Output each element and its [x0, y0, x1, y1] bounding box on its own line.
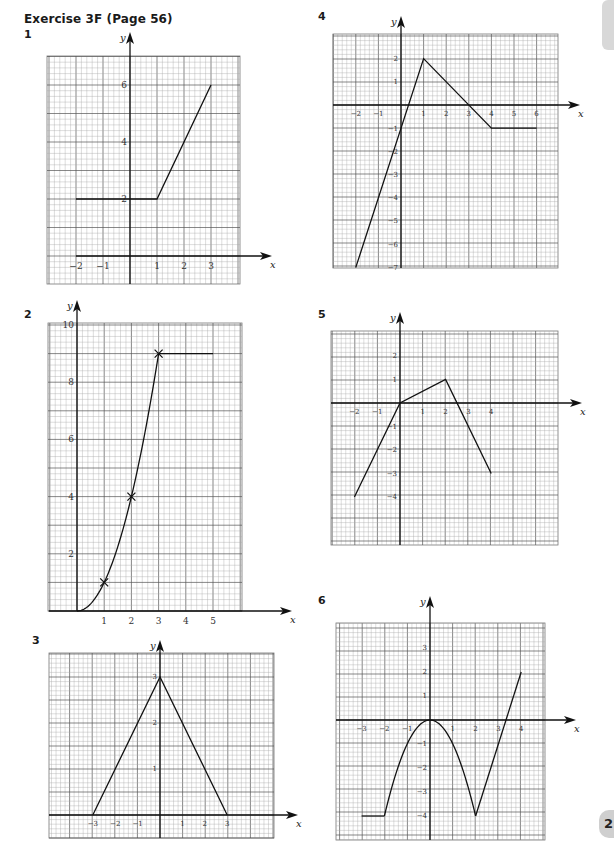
svg-text:−2: −2: [110, 820, 120, 828]
svg-text:3: 3: [466, 408, 470, 416]
svg-text:2: 2: [444, 110, 448, 118]
svg-text:1: 1: [423, 692, 427, 700]
svg-text:1: 1: [394, 78, 398, 86]
svg-text:2: 2: [394, 55, 398, 63]
svg-text:4: 4: [489, 408, 494, 416]
svg-text:2: 2: [129, 616, 135, 626]
svg-text:3: 3: [225, 820, 229, 828]
question-number-3: 3: [32, 634, 40, 647]
svg-text:1: 1: [451, 725, 455, 733]
svg-text:−1: −1: [372, 408, 382, 416]
svg-text:−3: −3: [417, 788, 427, 796]
svg-text:1: 1: [421, 408, 425, 416]
svg-text:−2: −2: [349, 408, 359, 416]
svg-text:3: 3: [153, 673, 157, 681]
svg-text:2: 2: [423, 668, 427, 676]
svg-text:−1: −1: [96, 261, 109, 271]
svg-text:2: 2: [181, 261, 187, 271]
svg-text:−1: −1: [417, 740, 427, 748]
graph-4: xy−2−112345621−1−2−3−4−5−6−7: [333, 16, 584, 272]
svg-text:2: 2: [203, 820, 207, 828]
svg-text:5: 5: [512, 110, 516, 118]
svg-text:y: y: [66, 300, 73, 311]
svg-text:6: 6: [534, 110, 539, 118]
svg-text:−2: −2: [351, 110, 361, 118]
svg-text:−4: −4: [388, 194, 399, 202]
svg-text:4: 4: [519, 725, 524, 733]
svg-text:x: x: [578, 108, 584, 119]
svg-text:5: 5: [210, 616, 216, 626]
svg-text:−3: −3: [356, 725, 366, 733]
grid: [47, 56, 240, 284]
svg-text:2: 2: [153, 719, 157, 727]
graph-2: xy12345246810: [48, 300, 296, 626]
question-number-1: 1: [24, 28, 32, 41]
svg-text:2: 2: [443, 408, 447, 416]
svg-text:−2: −2: [417, 764, 427, 772]
svg-text:3: 3: [156, 616, 162, 626]
svg-text:y: y: [149, 640, 156, 651]
svg-text:1: 1: [154, 261, 160, 271]
svg-text:−3: −3: [88, 820, 98, 828]
svg-text:−1: −1: [402, 725, 412, 733]
svg-text:x: x: [270, 259, 276, 270]
svg-text:3: 3: [467, 110, 471, 118]
graph-1: xy−2−1123246: [47, 32, 276, 284]
graphs-canvas: xy−2−1123246xy12345246810xy−3−2−1123123x…: [0, 0, 614, 842]
grid: [336, 623, 545, 840]
svg-text:2: 2: [68, 549, 74, 559]
graph-3: xy−3−2−1123123: [49, 640, 302, 838]
svg-text:4: 4: [68, 492, 74, 502]
svg-text:2: 2: [473, 725, 477, 733]
svg-text:y: y: [389, 312, 396, 323]
question-number-5: 5: [318, 308, 326, 321]
svg-text:6: 6: [68, 434, 74, 444]
svg-text:1: 1: [180, 820, 184, 828]
svg-text:4: 4: [183, 616, 189, 626]
svg-text:3: 3: [496, 725, 500, 733]
svg-text:6: 6: [121, 80, 127, 90]
svg-text:10: 10: [63, 320, 75, 330]
svg-text:8: 8: [68, 377, 74, 387]
svg-text:1: 1: [393, 376, 397, 384]
svg-text:−1: −1: [373, 110, 383, 118]
svg-text:x: x: [574, 723, 580, 734]
grid: [331, 331, 558, 545]
svg-text:x: x: [580, 406, 586, 417]
svg-text:−4: −4: [387, 493, 398, 501]
svg-text:3: 3: [208, 261, 214, 271]
svg-text:−1: −1: [388, 125, 398, 133]
svg-text:x: x: [290, 614, 296, 625]
svg-text:−5: −5: [388, 217, 398, 225]
svg-text:−1: −1: [132, 820, 142, 828]
svg-text:−6: −6: [388, 241, 399, 249]
svg-text:y: y: [419, 596, 426, 607]
graph-6: xy−3−2−11234321−1−2−3−4: [336, 596, 580, 840]
svg-text:1: 1: [153, 765, 157, 773]
question-number-2: 2: [24, 308, 32, 321]
svg-text:−2: −2: [379, 725, 389, 733]
svg-text:−3: −3: [387, 470, 397, 478]
svg-text:y: y: [390, 16, 397, 27]
svg-text:4: 4: [489, 110, 494, 118]
svg-text:y: y: [119, 32, 126, 43]
question-number-6: 6: [318, 594, 326, 607]
svg-text:2: 2: [393, 352, 397, 360]
svg-text:1: 1: [101, 616, 107, 626]
question-number-4: 4: [318, 10, 326, 23]
svg-text:−3: −3: [388, 171, 398, 179]
svg-text:3: 3: [423, 644, 427, 652]
svg-text:−4: −4: [417, 812, 428, 820]
svg-text:x: x: [296, 818, 302, 829]
svg-text:1: 1: [421, 110, 425, 118]
svg-text:−7: −7: [388, 264, 398, 272]
graph-5: xy−2−1123421−1−2−3−4: [331, 312, 586, 545]
svg-text:−2: −2: [69, 261, 82, 271]
svg-text:−2: −2: [387, 446, 397, 454]
svg-text:4: 4: [121, 137, 127, 147]
